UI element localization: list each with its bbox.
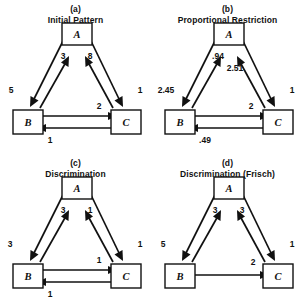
panel-c-node-a-label: A (72, 183, 80, 194)
panel-d-label-left-outer: 5 (161, 239, 166, 249)
panel-a-node-b-label: B (23, 117, 31, 128)
panel-b-edge-c-to-b (189, 124, 269, 132)
panel-d-node-a-label: A (224, 183, 232, 194)
panel-b-label-left-outer: 2.45 (158, 85, 175, 95)
panel-a-diagram: A B C 5 3 8 1 2 1 (0, 0, 151, 153)
panel-c-diagram: A B C 3 3 1 1 1 1 (0, 154, 151, 307)
panel-d-node-c-label: C (274, 271, 282, 282)
panel-a: (a) Initial Pattern (0, 0, 151, 153)
panel-a-label-left-inner: 3 (61, 51, 66, 61)
panel-c-label-bottom-upper: 1 (97, 255, 102, 265)
panel-a-label-right-inner: 8 (88, 51, 93, 61)
panel-c-label-right-inner: 1 (88, 205, 93, 215)
panel-a-label-bottom-lower: 1 (48, 135, 53, 145)
panel-b-node-a-label: A (224, 29, 232, 40)
panel-d-label-right-outer: 1 (290, 239, 295, 249)
panel-d-edge-c-to-a (237, 210, 265, 262)
figure-four-panel-flow-diagrams: (a) Initial Pattern (0, 0, 303, 307)
panel-d-label-bottom-upper: 2 (251, 257, 256, 267)
panel-b-node-c-label: C (274, 117, 282, 128)
panel-b-label-bottom-upper: 2 (249, 101, 254, 111)
panel-c-label-left-outer: 3 (8, 239, 13, 249)
panel-a-label-bottom-upper: 2 (97, 101, 102, 111)
panel-b-edge-b-to-a (192, 56, 221, 108)
panel-a-label-left-outer: 5 (9, 85, 14, 95)
panel-b-label-bottom-lower: .49 (199, 135, 211, 145)
panel-c-label-right-outer: 1 (138, 239, 143, 249)
panel-c: (c) Discrimination (0, 154, 151, 307)
panel-b-diagram: A B C 2.45 .94 2.51 1 2 .49 (152, 0, 303, 153)
panel-a-edge-b-to-a (40, 56, 69, 108)
panel-a-node-a-label: A (72, 29, 80, 40)
panel-d-node-b-label: B (175, 271, 183, 282)
panel-c-edge-c-to-b (37, 278, 117, 286)
panel-c-label-bottom-lower: 1 (48, 289, 53, 299)
panel-c-label-left-inner: 3 (61, 205, 66, 215)
panel-d-diagram: A B C 5 3 3 1 2 (152, 154, 303, 307)
panel-b-label-left-inner: .94 (212, 51, 224, 61)
panel-a-edge-b-to-c (37, 112, 117, 120)
panel-d: (d) Discrimination (Frisch) (152, 154, 303, 307)
panel-d-label-right-inner: 3 (240, 205, 245, 215)
panel-a-node-c-label: C (122, 117, 130, 128)
panel-c-edge-b-to-c (37, 266, 117, 274)
panel-d-label-left-inner: 3 (213, 205, 218, 215)
panel-d-edge-b-to-a (192, 210, 221, 262)
panel-a-label-right-outer: 1 (138, 85, 143, 95)
panel-c-node-b-label: B (23, 271, 31, 282)
panel-b-node-b-label: B (175, 117, 183, 128)
panel-d-edge-b-to-c (189, 271, 269, 279)
panel-c-node-c-label: C (122, 271, 130, 282)
panel-c-edge-b-to-a (40, 210, 69, 262)
panel-b-edge-b-to-c (189, 112, 269, 120)
panel-b-label-right-outer: 1 (290, 85, 295, 95)
panel-a-edge-c-to-b (37, 124, 117, 132)
panel-b: (b) Proportional Restriction (152, 0, 303, 153)
panel-b-label-right-inner: 2.51 (227, 63, 244, 73)
